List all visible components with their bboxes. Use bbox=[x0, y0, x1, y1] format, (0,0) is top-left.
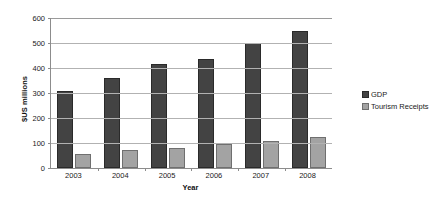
y-tick-label: 300 bbox=[32, 89, 51, 98]
y-tick-label: 600 bbox=[32, 14, 51, 23]
bar-tourism-receipts-2007 bbox=[263, 141, 279, 169]
gridline bbox=[51, 118, 332, 119]
x-tick-label: 2004 bbox=[97, 171, 144, 180]
gridline bbox=[51, 68, 332, 69]
bar-gdp-2004 bbox=[104, 78, 120, 168]
y-tick-label: 100 bbox=[32, 139, 51, 148]
y-tick-label: 500 bbox=[32, 39, 51, 48]
plot-area: 0100200300400500600 bbox=[50, 18, 332, 169]
bar-tourism-receipts-2008 bbox=[310, 137, 326, 168]
legend-item[interactable]: Tourism Receipts bbox=[362, 100, 429, 112]
bar-tourism-receipts-2006 bbox=[216, 144, 232, 168]
x-axis-title: Year bbox=[50, 183, 331, 192]
y-tick-label: 200 bbox=[32, 114, 51, 123]
legend-label: GDP bbox=[371, 90, 387, 99]
bar-chart: $US millions 0100200300400500600 2003200… bbox=[0, 0, 446, 197]
bar-gdp-2008 bbox=[292, 31, 308, 168]
bar-tourism-receipts-2003 bbox=[75, 154, 91, 168]
y-axis-title: $US millions bbox=[20, 75, 29, 121]
gridline bbox=[51, 18, 332, 19]
bar-gdp-2005 bbox=[151, 64, 167, 168]
gridline bbox=[51, 93, 332, 94]
bar-gdp-2007 bbox=[245, 43, 261, 168]
legend-label: Tourism Receipts bbox=[371, 102, 429, 111]
bar-gdp-2003 bbox=[57, 91, 73, 168]
y-tick-label: 400 bbox=[32, 64, 51, 73]
x-tick-label: 2007 bbox=[237, 171, 284, 180]
bar-tourism-receipts-2004 bbox=[122, 150, 138, 168]
gridline bbox=[51, 143, 332, 144]
legend-swatch-icon bbox=[362, 103, 369, 110]
legend-swatch-icon bbox=[362, 91, 369, 98]
legend: GDPTourism Receipts bbox=[362, 88, 429, 112]
x-tick-label: 2008 bbox=[284, 171, 331, 180]
x-tick-label: 2003 bbox=[50, 171, 97, 180]
x-tick-labels: 200320042005200620072008 bbox=[50, 171, 331, 180]
bar-tourism-receipts-2005 bbox=[169, 148, 185, 168]
x-tick-label: 2006 bbox=[190, 171, 237, 180]
legend-item[interactable]: GDP bbox=[362, 88, 429, 100]
bar-gdp-2006 bbox=[198, 59, 214, 169]
gridline bbox=[51, 43, 332, 44]
x-tick-label: 2005 bbox=[144, 171, 191, 180]
